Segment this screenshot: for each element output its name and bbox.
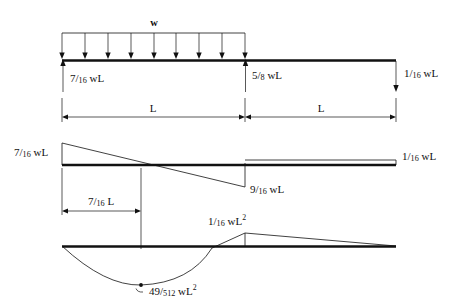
load-arrow <box>173 33 178 59</box>
right-reaction-denominator: 16 <box>413 70 421 79</box>
load-arrow <box>105 33 110 59</box>
load-arrow <box>219 33 224 59</box>
middle-reaction-label: 5/8 wL <box>252 69 282 82</box>
load-label-w: w <box>150 17 158 28</box>
load-arrow <box>151 33 156 59</box>
load-arrow <box>82 33 87 59</box>
load-arrow <box>242 33 247 59</box>
load-arrow <box>59 33 64 59</box>
moment-right-segment <box>245 233 396 246</box>
zero-crossing-label: 7/16 L <box>88 195 115 208</box>
span-right-label: L <box>318 102 325 114</box>
shear-min-value-label: 9/16 wL <box>250 183 284 196</box>
middle-reaction-unit: wL <box>267 69 282 81</box>
right-reaction-label: 1/16 wL <box>404 67 438 80</box>
middle-reaction-arrow <box>243 59 248 92</box>
moment-sag-value-label: 49/512 wL2 <box>149 283 197 297</box>
left-reaction-arrow <box>60 59 65 92</box>
right-reaction-arrow <box>393 61 398 92</box>
moment-diagram: 49/512 wL2 1/16 wL2 <box>62 213 396 297</box>
left-reaction-label: 7/16 wL <box>70 72 104 85</box>
load-arrow <box>196 33 201 59</box>
moment-sag-marker <box>139 283 143 287</box>
left-reaction-unit: wL <box>90 72 105 84</box>
left-reaction-denominator: 16 <box>79 75 87 84</box>
span-left-label: L <box>150 102 157 114</box>
shear-left-value-label: 7/16 wL <box>14 146 48 159</box>
moment-peak-value-label: 1/16 wL2 <box>208 213 246 227</box>
span-right-dimension: L <box>245 102 396 120</box>
beam-shear-moment-figure: w 7/16 wL 5/8 wL 1/16 wL <box>0 0 454 299</box>
load-arrow <box>128 33 133 59</box>
span-dimensions: L L <box>62 98 396 122</box>
moment-sag-leader <box>136 289 143 293</box>
shear-right-value-label: 1/16 wL <box>402 150 436 163</box>
moment-sag-curve <box>62 233 245 285</box>
load-diagram: w 7/16 wL 5/8 wL 1/16 wL <box>59 17 438 92</box>
span-left-dimension: L <box>62 102 245 120</box>
shear-diagram: 7/16 wL 9/16 wL 1/16 wL <box>14 143 436 195</box>
distributed-load-arrows <box>59 33 247 59</box>
right-reaction-unit: wL <box>424 67 439 79</box>
zero-crossing-dimension: 7/16 L <box>62 168 141 249</box>
